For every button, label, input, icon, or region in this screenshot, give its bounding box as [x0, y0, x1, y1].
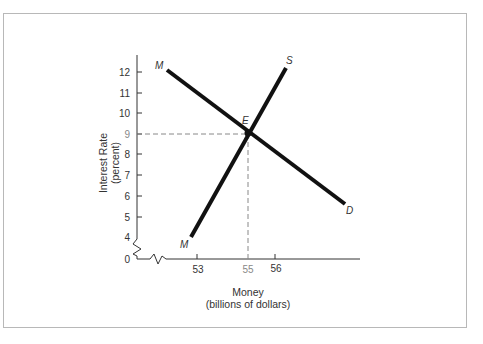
money-demand-curve	[167, 70, 345, 204]
equilibrium-guides	[137, 134, 248, 259]
money-supply-curve	[191, 68, 286, 237]
svg-text:55: 55	[242, 264, 254, 275]
svg-text:11: 11	[120, 88, 131, 99]
x-tick-labels: 53 55 56	[192, 263, 282, 275]
money-market-chart: 12 11 10 9 8 7 6 5 4 0 53 55 56 M D M S …	[0, 0, 483, 344]
svg-text:7: 7	[124, 170, 130, 181]
svg-text:4: 4	[124, 232, 130, 243]
supply-end-label: S	[286, 55, 293, 66]
svg-text:8: 8	[124, 149, 130, 160]
svg-text:5: 5	[124, 212, 130, 223]
svg-text:12: 12	[119, 67, 131, 78]
y-axis-subtitle: (percent)	[109, 142, 121, 184]
equilibrium-point	[245, 130, 252, 137]
equilibrium-label: E	[242, 115, 249, 126]
x-axis-subtitle: (billions of dollars)	[206, 298, 291, 310]
svg-text:9: 9	[124, 129, 130, 140]
demand-start-label: M	[155, 60, 164, 71]
svg-text:0: 0	[124, 254, 130, 265]
demand-end-label: D	[346, 205, 353, 216]
y-axis	[133, 55, 142, 259]
y-axis-title: Interest Rate	[97, 133, 109, 193]
supply-start-label: M	[180, 239, 189, 250]
svg-text:56: 56	[270, 263, 282, 274]
x-axis-title: Money	[232, 286, 264, 298]
svg-text:10: 10	[119, 108, 131, 119]
svg-text:6: 6	[124, 191, 130, 202]
svg-text:53: 53	[192, 264, 204, 275]
